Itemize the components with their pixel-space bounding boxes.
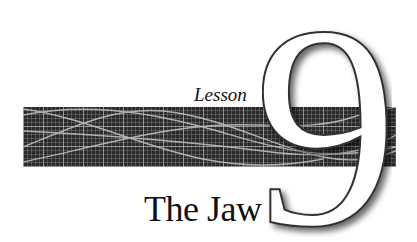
- svg-text:9: 9: [262, 6, 392, 238]
- page-title: The Jaw: [144, 188, 261, 230]
- lesson-number-graphic: 9: [262, 6, 392, 238]
- lesson-label: Lesson: [194, 84, 247, 106]
